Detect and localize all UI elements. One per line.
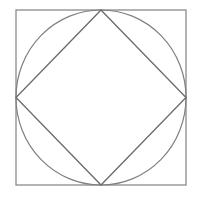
inscribed-circle xyxy=(16,10,186,185)
outer-square xyxy=(16,10,186,185)
inscribed-diamond xyxy=(16,10,186,185)
geometry-figure xyxy=(0,0,198,198)
